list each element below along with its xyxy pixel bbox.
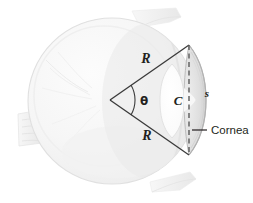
radius-label-lower: R [141,128,151,143]
inferior-muscle-icon [150,172,196,192]
eye-diagram-canvas: R R θ C s Cornea [0,0,253,203]
arc-length-label: s [204,87,209,99]
eye-geometry-figure: R R θ C s Cornea [0,0,253,203]
cornea-label: Cornea [211,124,249,136]
radius-label-upper: R [140,51,150,66]
center-label: C [174,93,183,108]
angle-label-theta: θ [140,94,148,108]
